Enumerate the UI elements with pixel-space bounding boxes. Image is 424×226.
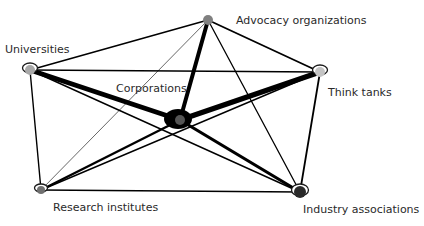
edge-corporations-industry: [180, 120, 300, 192]
label-corporations: Corporations: [116, 82, 187, 95]
edge-advocacy-thinktanks: [208, 20, 320, 72]
edge-universities-corporations: [30, 70, 180, 120]
node-circle-icon: [203, 15, 213, 25]
node-circle-icon: [294, 186, 306, 198]
network-diagram: Advocacy organizations Universities Thin…: [0, 0, 424, 226]
edge-universities-research: [30, 70, 41, 190]
node-circle-icon: [175, 115, 185, 125]
node-industry: [292, 184, 309, 198]
node-corporations: [164, 109, 192, 129]
edge-research-industry: [41, 190, 300, 192]
edge-corporations-research: [41, 120, 180, 190]
label-advocacy-organizations: Advocacy organizations: [236, 14, 367, 27]
node-circle-icon: [25, 65, 35, 75]
node-circle-icon: [37, 186, 45, 194]
label-research-institutes: Research institutes: [53, 201, 158, 214]
edge-advocacy-corporations: [180, 20, 208, 120]
edges-layer: [30, 20, 320, 192]
node-circle-icon: [315, 67, 325, 77]
label-industry-associations: Industry associations: [303, 203, 420, 216]
node-research: [35, 184, 48, 194]
node-advocacy: [203, 15, 213, 25]
label-universities: Universities: [5, 43, 70, 56]
label-think-tanks: Think tanks: [327, 86, 392, 99]
edge-thinktanks-industry: [300, 72, 320, 192]
labels-layer: Advocacy organizations Universities Thin…: [5, 14, 420, 216]
edge-thinktanks-corporations: [180, 72, 320, 120]
edge-universities-thinktanks: [30, 70, 320, 72]
